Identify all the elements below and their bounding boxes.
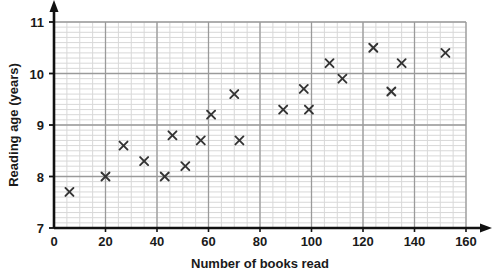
x-tick-label-60: 60: [201, 234, 215, 249]
x-tick-label-0: 0: [50, 234, 57, 249]
x-axis-title: Number of books read: [191, 256, 329, 271]
y-tick-label-8: 8: [37, 170, 44, 185]
y-axis-title: Reading age (years): [6, 63, 21, 187]
x-tick-label-20: 20: [98, 234, 112, 249]
x-tick-label-120: 120: [352, 234, 374, 249]
y-tick-label-10: 10: [30, 67, 44, 82]
y-tick-label-7: 7: [37, 221, 44, 236]
x-tick-label-80: 80: [253, 234, 267, 249]
scatter-chart: 020406080100120140160 7891011 Number of …: [0, 0, 504, 274]
x-tick-label-40: 40: [150, 234, 164, 249]
chart-axes: [49, 0, 492, 233]
y-tick-label-9: 9: [37, 118, 44, 133]
x-tick-label-100: 100: [301, 234, 323, 249]
x-tick-label-160: 160: [455, 234, 477, 249]
y-tick-label-11: 11: [30, 15, 44, 30]
x-axis-tick-labels: 020406080100120140160: [50, 234, 476, 249]
x-tick-label-140: 140: [404, 234, 426, 249]
y-axis-tick-labels: 7891011: [30, 15, 44, 236]
chart-canvas: 020406080100120140160 7891011 Number of …: [0, 0, 504, 274]
